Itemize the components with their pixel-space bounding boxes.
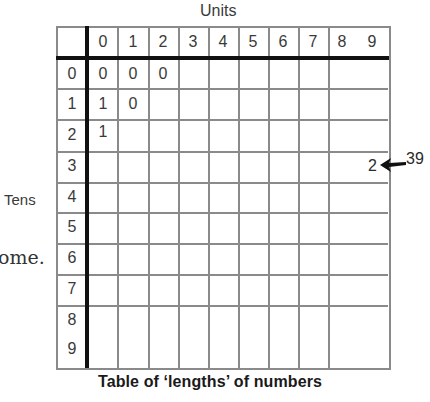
row-header: 1 [57,89,87,119]
left-arrow-icon [380,156,406,172]
row-divider [57,151,388,153]
table-cell: 1 [88,117,118,147]
table-cell: 1 [88,89,118,119]
row-header: 5 [57,212,87,242]
row-divider [57,182,388,184]
col-divider [268,27,270,368]
annotation-value: 39 [406,150,424,168]
row-divider [57,274,388,276]
column-header: 4 [208,27,238,57]
column-header: 1 [118,27,148,57]
col-divider [298,27,300,368]
row-header: 6 [57,243,87,273]
table-caption: Table of ‘lengths’ of numbers [98,373,322,391]
row-divider [57,243,388,245]
table-cell: 0 [118,59,148,89]
length-table: 0 1 2 3 4 5 6 7 8 9 0 1 2 3 4 5 6 7 8 9 … [0,0,430,372]
column-header: 8 [327,27,357,57]
column-header: 5 [238,27,268,57]
column-header: 2 [148,27,178,57]
table-cell: 0 [118,89,148,119]
row-divider [57,305,388,307]
col-divider [178,27,180,368]
col-divider [328,27,330,368]
row-header: 4 [57,182,87,212]
row-header: 3 [57,151,87,181]
column-header: 0 [88,27,118,57]
row-divider [57,212,388,214]
column-header: 3 [178,27,208,57]
row-header: 0 [57,59,87,89]
table-cell-annotated: 2 [368,157,377,175]
col-divider [208,27,210,368]
row-header: 2 [57,120,87,150]
table-cell: 0 [148,59,178,89]
column-header: 7 [298,27,328,57]
column-header: 6 [268,27,298,57]
row-header: 8 [57,305,87,335]
col-divider [238,27,240,368]
column-header: 9 [357,27,387,57]
row-header: 7 [57,274,87,304]
table-cell: 0 [88,59,118,89]
row-header: 9 [57,334,87,364]
